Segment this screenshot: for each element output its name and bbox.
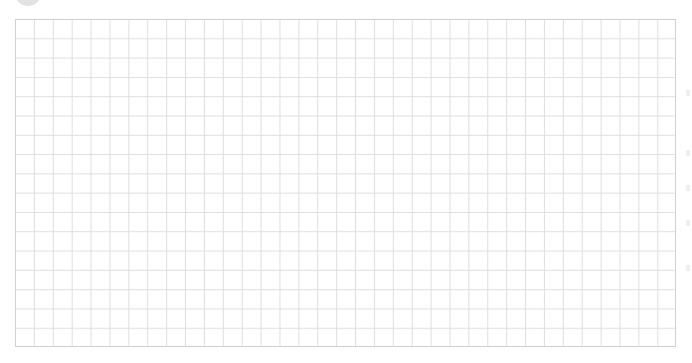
avatar[interactable] [15,0,41,6]
canvas [0,0,692,363]
grid-paper-canvas[interactable] [15,19,676,347]
cut-off-side-content [686,90,692,280]
